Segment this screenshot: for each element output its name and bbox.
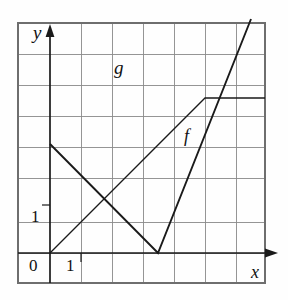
curve-label-g: g: [114, 57, 124, 79]
plot-canvas: [0, 0, 288, 300]
x-axis-arrowhead: [265, 249, 278, 258]
y-tick-label-1: 1: [31, 207, 40, 227]
x-tick-label-1: 1: [66, 256, 75, 276]
grid-lines: [18, 23, 265, 283]
curve-label-f: f: [184, 126, 189, 147]
y-axis-label: y: [33, 22, 41, 44]
graph-figure: y x g f 0 1 1: [0, 0, 288, 300]
y-axis-arrowhead: [46, 24, 55, 37]
plot-border: [18, 23, 265, 283]
x-axis-label: x: [251, 262, 259, 283]
origin-label: 0: [29, 256, 38, 276]
